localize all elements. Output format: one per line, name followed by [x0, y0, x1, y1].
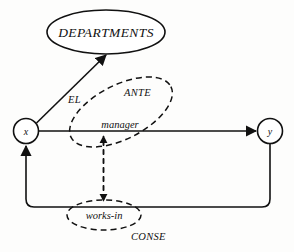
annotation-label-el: EL — [67, 94, 81, 105]
annotation-label-conse: CONSE — [131, 231, 166, 242]
annotation-label-ante: ANTE — [123, 87, 151, 98]
entity-label-y: y — [267, 126, 273, 137]
edge-y-to-x-works-in — [26, 143, 270, 207]
relationship-ellipse-manager — [59, 63, 183, 162]
relationship-label-works-in: works-in — [86, 210, 123, 221]
er-diagram: DEPARTMENTS x y manager works-in EL ANTE… — [0, 0, 294, 252]
relationship-label-manager: manager — [101, 119, 139, 130]
entity-label-x: x — [23, 126, 29, 137]
entity-label-departments: DEPARTMENTS — [57, 25, 154, 40]
diagram-canvas: DEPARTMENTS x y manager works-in EL ANTE… — [0, 0, 294, 252]
edge-x-to-departments — [37, 55, 107, 123]
